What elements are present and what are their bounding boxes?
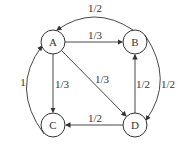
node-c-label: C [49, 119, 56, 131]
edge-a-d-label: 1/3 [95, 73, 110, 85]
edge-c-a-label: 1 [20, 76, 26, 88]
edge-d-c-label: 1/2 [88, 112, 102, 124]
node-b-label: B [131, 36, 138, 48]
graph-canvas: A B C D 1/3 1/3 1/3 1/2 1/2 1 1/2 1/2 [0, 0, 188, 155]
edge-b-d-label: 1/2 [161, 78, 175, 90]
edge-b-a-label: 1/2 [88, 2, 102, 14]
edge-a-b-label: 1/3 [88, 29, 103, 41]
node-d-label: D [131, 119, 139, 131]
edge-a-c-label: 1/3 [55, 78, 70, 90]
node-a-label: A [49, 36, 57, 48]
edge-d-b-label: 1/2 [136, 78, 150, 90]
